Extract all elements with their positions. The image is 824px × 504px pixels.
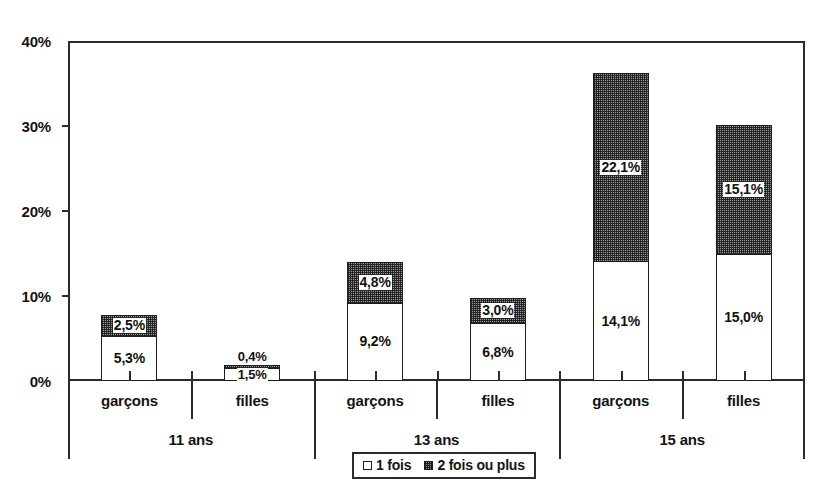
x-axis-gender-label-garçons: garçons xyxy=(314,381,437,419)
stacked-bar-chart: 40%30%20%10%0% 2,5%5,3%0,4%1,5%4,8%9,2%3… xyxy=(0,0,824,504)
bar-value-label: 4,8% xyxy=(359,275,392,290)
bar-13ans-filles: 3,0%6,8% xyxy=(470,298,526,381)
y-axis-tick-label: 0% xyxy=(30,373,51,390)
x-axis-tick xyxy=(559,371,561,381)
bar-value-label: 5,3% xyxy=(113,351,146,366)
x-axis-gender-row: garçonsfillesgarçonsfillesgarçonsfilles xyxy=(68,381,805,419)
x-axis-tick xyxy=(191,371,193,381)
x-axis-tick xyxy=(68,371,70,381)
y-axis-tick-label: 20% xyxy=(22,203,51,220)
x-axis-tick xyxy=(129,371,131,381)
x-axis-tick xyxy=(498,371,500,381)
x-axis-gender-label-garçons: garçons xyxy=(68,381,191,419)
bar-15ans-filles: 15,1%15,0% xyxy=(716,125,772,381)
scan-bleedthrough-artifact xyxy=(0,0,824,36)
x-axis-minor-ticks xyxy=(68,371,805,381)
legend-swatch-white-square-icon xyxy=(363,461,372,470)
bar-segment-2-fois-ou-plus: 15,1% xyxy=(716,125,772,253)
x-axis-gender-label-filles: filles xyxy=(191,381,314,419)
x-axis-group-label: 15 ans xyxy=(559,419,805,459)
legend-item: 2 fois ou plus xyxy=(424,457,524,473)
bar-segment-1-fois: 9,2% xyxy=(347,303,403,381)
bar-value-label: 3,0% xyxy=(481,303,514,318)
bar-value-label: 15,0% xyxy=(723,310,764,325)
x-axis-tick xyxy=(375,371,377,381)
bar-value-label: 9,2% xyxy=(359,334,392,349)
bar-value-label: 22,1% xyxy=(600,160,641,175)
legend: 1 fois2 fois ou plus xyxy=(352,452,536,479)
legend-item: 1 fois xyxy=(363,457,411,473)
bar-segment-1-fois: 14,1% xyxy=(593,261,649,381)
bar-segment-2-fois-ou-plus: 4,8% xyxy=(347,262,403,303)
y-axis-tick-label: 30% xyxy=(22,118,51,135)
bar-value-label: 0,4% xyxy=(237,350,268,363)
bars-layer: 2,5%5,3%0,4%1,5%4,8%9,2%3,0%6,8%22,1%14,… xyxy=(68,41,805,381)
x-axis-tick xyxy=(314,371,316,381)
x-axis-tick xyxy=(744,371,746,381)
bar-value-label: 15,1% xyxy=(723,182,764,197)
bar-value-label: 6,8% xyxy=(481,345,514,360)
x-axis-gender-label-filles: filles xyxy=(436,381,559,419)
legend-swatch-hatched-square-icon xyxy=(424,461,433,470)
x-axis-tick xyxy=(437,371,439,381)
bar-value-label: 2,5% xyxy=(113,318,146,333)
x-axis-tick xyxy=(682,371,684,381)
x-axis-group-label: 11 ans xyxy=(68,419,314,459)
y-axis: 40%30%20%10%0% xyxy=(0,41,60,381)
bar-13ans-garçons: 4,8%9,2% xyxy=(347,262,403,381)
x-axis-tick xyxy=(803,371,805,381)
x-axis-tick xyxy=(621,371,623,381)
bar-segment-2-fois-ou-plus: 22,1% xyxy=(593,73,649,261)
y-axis-tick-label: 40% xyxy=(22,33,51,50)
bar-value-label: 1,5% xyxy=(237,368,268,381)
bar-value-label: 14,1% xyxy=(600,314,641,329)
legend-label: 2 fois ou plus xyxy=(437,457,524,473)
y-axis-tick-label: 10% xyxy=(22,288,51,305)
x-axis-gender-label-garçons: garçons xyxy=(559,381,682,419)
bar-segment-1-fois: 15,0% xyxy=(716,254,772,382)
x-axis: garçonsfillesgarçonsfillesgarçonsfilles … xyxy=(68,381,805,459)
legend-label: 1 fois xyxy=(376,457,411,473)
bar-segment-2-fois-ou-plus: 3,0% xyxy=(470,298,526,324)
bar-15ans-garçons: 22,1%14,1% xyxy=(593,73,649,381)
bar-segment-2-fois-ou-plus: 2,5% xyxy=(101,315,157,336)
x-axis-gender-label-filles: filles xyxy=(682,381,805,419)
